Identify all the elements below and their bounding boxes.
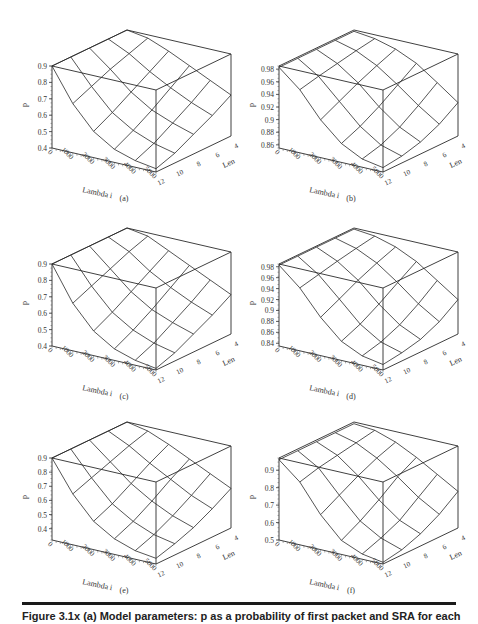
svg-text:10: 10	[402, 560, 412, 570]
svg-text:0.94: 0.94	[261, 285, 274, 294]
svg-text:0.96: 0.96	[261, 78, 274, 87]
svg-text:8: 8	[195, 358, 202, 367]
svg-text:12: 12	[383, 569, 393, 579]
svg-text:8: 8	[422, 358, 429, 367]
svg-text:0.96: 0.96	[261, 274, 274, 283]
svg-text:12: 12	[156, 375, 166, 385]
plot-canvas-e: 0.40.50.60.70.80.9p010002000300040005000…	[0, 392, 239, 597]
svg-text:0.4: 0.4	[38, 342, 48, 351]
surface-plot-e: 0.40.50.60.70.80.9p010002000300040005000…	[0, 392, 239, 597]
svg-text:12: 12	[156, 177, 166, 187]
wireframe	[279, 30, 458, 172]
wireframe	[52, 30, 231, 172]
svg-text:6: 6	[441, 349, 448, 358]
surface-plot-c: 0.40.50.60.70.80.9p010002000300040005000…	[0, 198, 239, 403]
svg-text:10: 10	[175, 366, 185, 376]
svg-text:0.4: 0.4	[38, 525, 48, 534]
svg-text:6: 6	[214, 349, 221, 358]
svg-text:0.9: 0.9	[265, 116, 275, 125]
figure-caption: Figure 3.1x (a) Model parameters: p as a…	[22, 610, 462, 624]
svg-text:0.94: 0.94	[261, 90, 274, 99]
svg-text:0.5: 0.5	[38, 326, 48, 335]
z-axis-ticks: 0.40.50.60.70.80.9	[38, 454, 52, 540]
svg-text:0.88: 0.88	[261, 317, 274, 326]
svg-text:0.98: 0.98	[261, 65, 274, 74]
svg-text:0: 0	[273, 346, 281, 354]
svg-text:0.9: 0.9	[265, 306, 275, 315]
svg-text:0.7: 0.7	[265, 501, 275, 510]
svg-text:8: 8	[195, 160, 202, 169]
svg-text:10: 10	[175, 560, 185, 570]
x-axis-ticks: 010002000300040005000	[273, 344, 385, 379]
x-axis-label: Lambda i	[82, 577, 114, 592]
svg-text:12: 12	[156, 569, 166, 579]
surface-plot-b: 0.860.880.90.920.940.960.98p010002000300…	[227, 0, 466, 205]
wireframe	[52, 228, 231, 370]
svg-text:0.98: 0.98	[261, 263, 274, 272]
svg-text:10: 10	[402, 366, 412, 376]
x-axis-label: Lambda i	[309, 577, 341, 592]
svg-text:0.7: 0.7	[38, 293, 48, 302]
svg-text:0: 0	[46, 148, 54, 156]
z-axis-ticks: 0.40.50.60.70.80.9	[38, 62, 52, 153]
z-axis-label: p	[247, 301, 256, 305]
svg-text:0.8: 0.8	[265, 484, 275, 493]
svg-text:0.86: 0.86	[261, 328, 274, 337]
z-axis-ticks: 0.40.50.60.70.80.9	[38, 260, 52, 351]
svg-text:0.4: 0.4	[38, 144, 48, 153]
svg-text:0.5: 0.5	[38, 128, 48, 137]
svg-text:0.86: 0.86	[261, 141, 274, 150]
svg-text:6: 6	[441, 151, 448, 160]
plot-canvas-a: 0.40.50.60.70.80.9p010002000300040005000…	[0, 0, 239, 205]
svg-text:0.6: 0.6	[38, 111, 48, 120]
svg-text:8: 8	[195, 552, 202, 561]
svg-text:0.92: 0.92	[261, 103, 274, 112]
svg-text:0.8: 0.8	[38, 276, 48, 285]
surface-plot-a: 0.40.50.60.70.80.9p010002000300040005000…	[0, 0, 239, 205]
svg-text:4: 4	[460, 340, 467, 349]
wireframe	[52, 422, 231, 564]
svg-text:0.6: 0.6	[38, 496, 48, 505]
svg-text:10: 10	[402, 168, 412, 178]
x-axis-ticks: 010002000300040005000	[273, 538, 385, 573]
svg-text:12: 12	[383, 375, 393, 385]
caption-divider	[22, 602, 456, 605]
svg-text:0.92: 0.92	[261, 296, 274, 305]
svg-text:8: 8	[422, 552, 429, 561]
svg-text:0.7: 0.7	[38, 482, 48, 491]
svg-text:0.5: 0.5	[38, 511, 48, 520]
y-axis-label: Len	[448, 156, 463, 169]
subfigure-label: (f)	[347, 586, 355, 595]
surface-plot-d: 0.840.860.880.90.920.940.960.98p01000200…	[227, 198, 466, 403]
svg-text:0.5: 0.5	[265, 536, 275, 545]
svg-text:8: 8	[422, 160, 429, 169]
svg-text:0.9: 0.9	[38, 454, 48, 463]
wireframe	[279, 228, 458, 370]
svg-text:0: 0	[273, 540, 281, 548]
svg-text:4: 4	[460, 534, 467, 543]
svg-text:0.7: 0.7	[38, 95, 48, 104]
svg-text:0.6: 0.6	[38, 309, 48, 318]
svg-text:0: 0	[46, 540, 54, 548]
svg-text:6: 6	[214, 151, 221, 160]
svg-text:0.9: 0.9	[38, 62, 48, 71]
plot-canvas-b: 0.860.880.90.920.940.960.98p010002000300…	[227, 0, 466, 205]
svg-text:0.9: 0.9	[38, 260, 48, 269]
svg-text:4: 4	[460, 142, 467, 151]
svg-text:0.6: 0.6	[265, 519, 275, 528]
plot-canvas-c: 0.40.50.60.70.80.9p010002000300040005000…	[0, 198, 239, 403]
x-axis-ticks: 010002000300040005000	[46, 344, 158, 379]
svg-text:0.84: 0.84	[261, 339, 274, 348]
z-axis-label: p	[20, 301, 29, 305]
z-axis-ticks: 0.860.880.90.920.940.960.98	[261, 65, 279, 150]
subfigure-label: (e)	[120, 586, 129, 595]
z-axis-ticks: 0.50.60.70.80.9	[265, 458, 279, 545]
z-axis-ticks: 0.840.860.880.90.920.940.960.98	[261, 263, 279, 349]
y-axis-label: Len	[448, 354, 463, 367]
z-axis-label: p	[247, 495, 256, 499]
plot-canvas-f: 0.50.60.70.80.9p010002000300040005000Lam…	[227, 392, 466, 597]
svg-text:0.8: 0.8	[38, 78, 48, 87]
plot-canvas-d: 0.840.860.880.90.920.940.960.98p01000200…	[227, 198, 466, 403]
x-axis-ticks: 010002000300040005000	[46, 538, 158, 573]
z-axis-label: p	[20, 103, 29, 107]
